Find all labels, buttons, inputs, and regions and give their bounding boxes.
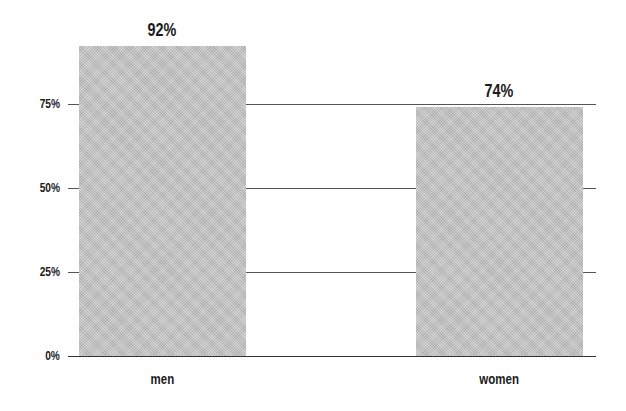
- category-label-men: men: [79, 371, 246, 387]
- value-label-men: 92%: [79, 20, 246, 40]
- value-label-women-text: 74%: [485, 81, 514, 101]
- x-axis-baseline: [68, 356, 596, 357]
- bar-women: [416, 107, 583, 356]
- y-tick-label-0: 0%: [45, 349, 60, 363]
- category-label-men-text: men: [151, 371, 175, 387]
- y-tick-label-50: 50%: [40, 181, 60, 195]
- y-tick-label-25: 25%: [40, 265, 60, 279]
- y-tick-label-75: 75%: [40, 97, 60, 111]
- category-label-women: women: [416, 371, 583, 387]
- category-label-women-text: women: [480, 371, 520, 387]
- bar-chart: 75% 50% 25% 0% 92% 74% men women: [0, 0, 626, 411]
- bar-men: [79, 46, 246, 356]
- value-label-women: 74%: [416, 81, 583, 101]
- value-label-men-text: 92%: [148, 20, 177, 40]
